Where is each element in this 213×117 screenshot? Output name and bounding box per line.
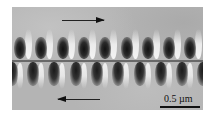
spot [132, 29, 139, 59]
spot [68, 29, 75, 59]
spot [197, 62, 203, 86]
scale-bar-label: 0.5 µm [164, 93, 193, 104]
spot [27, 62, 39, 86]
spot [48, 62, 60, 86]
spot [121, 37, 133, 59]
scale-bar [160, 106, 200, 108]
spot [110, 29, 117, 59]
spot [99, 37, 111, 59]
spot [174, 29, 181, 59]
spot [153, 29, 160, 59]
spot [176, 62, 188, 86]
arrow-right-icon [62, 20, 104, 21]
spot [112, 62, 124, 86]
spot [25, 29, 32, 59]
arrowhead-icon [57, 96, 66, 102]
spot [57, 37, 69, 59]
spot [184, 37, 196, 59]
spot [14, 37, 26, 59]
spot [142, 37, 154, 59]
spot [163, 37, 175, 59]
spot [123, 63, 129, 89]
spot [70, 62, 82, 86]
arrow-left-icon [58, 99, 100, 100]
arrowhead-icon [96, 17, 105, 23]
spot [91, 62, 103, 86]
spot [35, 37, 47, 59]
spot [155, 62, 167, 86]
interface-line [12, 60, 203, 62]
spot [89, 29, 96, 59]
spot [78, 37, 90, 59]
spot [134, 62, 146, 86]
